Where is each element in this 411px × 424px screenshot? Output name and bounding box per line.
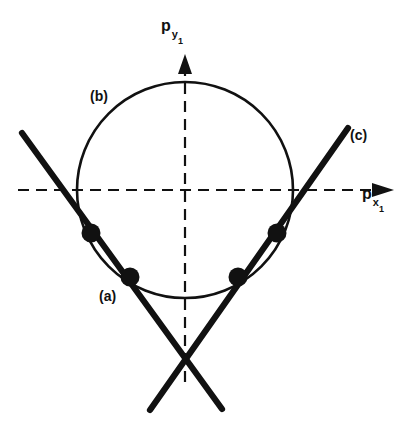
x-axis-label-subvar: x [373, 196, 379, 208]
x-axis-label-p: p [362, 185, 372, 202]
x-axis-label-subscript: x1 [373, 196, 384, 208]
y-axis-label-subscript: y1 [172, 28, 183, 40]
lower-right-intersection-dot [229, 268, 248, 287]
curve-label-c: (c) [350, 128, 367, 142]
x-axis-label: px1 [362, 186, 383, 208]
y-axis-label: py1 [161, 18, 182, 40]
up-arrow-icon [178, 54, 192, 74]
upper-right-intersection-dot [268, 224, 287, 243]
momentum-diagram-svg [0, 0, 411, 424]
y-axis-group [178, 54, 192, 382]
lower-left-intersection-dot [121, 268, 140, 287]
x-axis-label-subindex: 1 [379, 204, 384, 214]
curve-label-b: (b) [90, 89, 108, 103]
y-axis-label-subindex: 1 [178, 36, 183, 46]
x-axis-group [18, 183, 394, 197]
curve-c-line [150, 128, 348, 410]
figure-container: py1 px1 (a) (b) (c) [0, 0, 411, 424]
curve-a-line [22, 133, 222, 409]
curve-label-a: (a) [99, 289, 116, 303]
y-axis-label-p: p [161, 17, 171, 34]
upper-left-intersection-dot [82, 224, 101, 243]
y-axis-label-subvar: y [172, 28, 178, 40]
